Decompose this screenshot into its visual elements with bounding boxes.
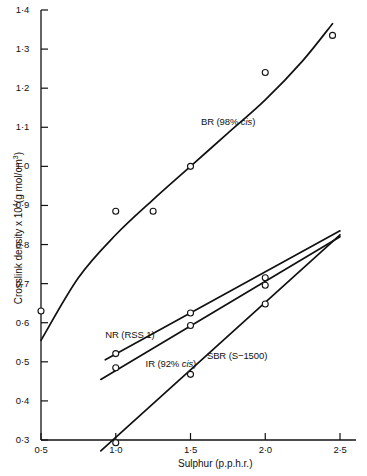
series-label: SBR (S−1500) [207,350,267,361]
x-tick-label: 1·0 [96,444,136,455]
series-label: IR (92% cis) [146,358,197,369]
data-point-marker [188,163,194,169]
x-tick-label: 0·5 [21,444,61,455]
y-tick-label: 0·5 [0,356,29,367]
x-tick-label: 2·0 [245,444,285,455]
crosslink-density-chart: Crosslink density x 104(g mol/cm3) Sulph… [0,0,367,476]
data-point-marker [330,32,336,38]
series-curve [41,24,333,341]
x-tick-label: 1·5 [171,444,211,455]
y-tick-label: 0·6 [0,317,29,328]
y-tick-label: 1·0 [0,160,29,171]
data-point-marker [150,208,156,214]
y-tick-label: 1·3 [0,43,29,54]
data-point-marker [113,208,119,214]
data-point-marker [188,322,194,328]
y-tick-label: 1·1 [0,121,29,132]
y-tick-label: 0·8 [0,239,29,250]
data-point-marker [262,282,268,288]
data-point-marker [188,310,194,316]
data-point-marker [262,70,268,76]
x-tick-label: 2·5 [320,444,360,455]
y-tick-label: 1·4 [0,4,29,15]
y-axis-title: Crosslink density x 104(g mol/cm3) [12,128,24,328]
y-tick-label: 0·4 [0,395,29,406]
data-point-marker [113,365,119,371]
y-tick-label: 0·7 [0,278,29,289]
y-tick-label: 1·2 [0,82,29,93]
data-point-marker [38,308,44,314]
y-tick-label: 0·9 [0,199,29,210]
series-label: NR (RSS 1) [105,329,154,340]
x-axis-title: Sulphur (p.p.h.r.) [178,458,252,469]
chart-plot-area [0,0,367,476]
data-point-marker [262,301,268,307]
data-point-marker [188,371,194,377]
series-label: BR (98% cis) [201,116,255,127]
data-point-marker [113,351,119,357]
